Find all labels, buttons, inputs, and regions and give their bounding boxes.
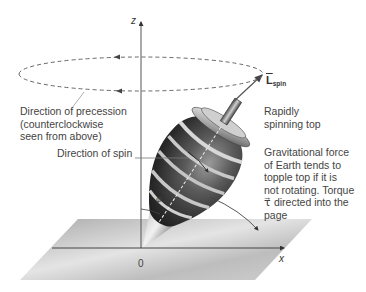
spin-direction-label: Direction of spin [57, 147, 132, 160]
origin-label: 0 [138, 258, 144, 271]
precession-label: Direction of precession (counterclockwis… [20, 105, 127, 143]
L-spin-label: Lspin [266, 74, 286, 87]
top-label: Rapidly spinning top [264, 105, 321, 130]
L-spin-vector [232, 75, 262, 103]
gravity-label: Gravitational force of Earth tends to to… [264, 146, 354, 221]
phi-label: φ [156, 193, 162, 206]
z-axis-label: z [131, 15, 136, 26]
x-axis-label: x [279, 253, 284, 264]
